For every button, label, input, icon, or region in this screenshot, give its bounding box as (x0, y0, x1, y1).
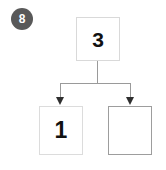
arrowhead-down-icon-left (56, 97, 64, 105)
tree-node-root[interactable]: 3 (76, 17, 120, 61)
tree-node-left-child[interactable]: 1 (39, 106, 83, 155)
arrowhead-down-icon-right (126, 97, 134, 105)
tree-node-left-child-label: 1 (55, 119, 68, 142)
connector-horizontal-bus (60, 83, 131, 84)
diagram-canvas: 8 3 1 (0, 0, 166, 170)
tree-node-right-child[interactable] (108, 106, 152, 155)
connector-root-stem (97, 61, 98, 84)
tree-node-root-label: 3 (92, 29, 104, 50)
step-number-badge: 8 (11, 8, 33, 30)
